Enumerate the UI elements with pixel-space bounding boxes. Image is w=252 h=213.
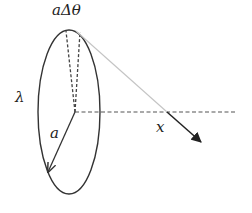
radius-label: a xyxy=(50,124,59,142)
field-arrow xyxy=(167,112,201,142)
charge-density-label: λ xyxy=(15,88,25,106)
ring-field-diagram xyxy=(0,0,252,213)
arc-element-dash-left xyxy=(66,31,75,112)
arc-element-dash-right xyxy=(75,32,80,112)
field-line xyxy=(76,31,167,112)
radius-arrow xyxy=(48,112,75,172)
distance-label: x xyxy=(156,118,164,136)
arc-length-label: aΔθ xyxy=(52,1,81,19)
